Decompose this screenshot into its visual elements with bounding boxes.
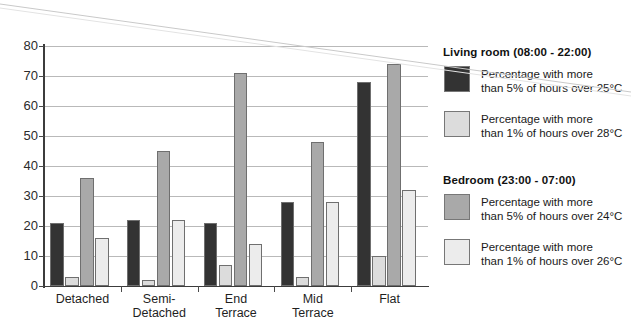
y-axis-labels: 01020304050607080 xyxy=(0,0,38,332)
bar-chart: 01020304050607080 DetachedSemi-DetachedE… xyxy=(0,0,436,332)
y-axis-tick-mark xyxy=(39,76,44,77)
x-axis-tick-label: Detached xyxy=(44,292,121,306)
legend-label-line: than 1% of hours over 28°C xyxy=(481,126,626,140)
y-axis-tick-mark xyxy=(39,226,44,227)
legend-label-line: Percentage with more xyxy=(481,67,626,81)
y-axis-tick-label: 80 xyxy=(4,39,38,52)
legend-label: Percentage with morethan 5% of hours ove… xyxy=(481,195,626,223)
x-axis-category-label: Flat xyxy=(351,292,428,306)
x-axis-tick-label: Terrace xyxy=(198,306,275,320)
legend-swatch xyxy=(444,194,470,220)
legend-section-title: Bedroom (23:00 - 07:00) xyxy=(443,174,576,186)
bar xyxy=(326,202,340,286)
y-axis-tick-label: 0 xyxy=(4,279,38,292)
bar xyxy=(65,277,79,286)
bar xyxy=(311,142,325,286)
legend-label-line: than 5% of hours over 25°C xyxy=(481,81,626,95)
bar xyxy=(80,178,94,286)
x-axis-tick-label: Detached xyxy=(121,306,198,320)
legend-label-line: Percentage with more xyxy=(481,195,626,209)
bar xyxy=(127,220,141,286)
legend-label: Percentage with morethan 1% of hours ove… xyxy=(481,240,626,268)
x-axis-tick-mark xyxy=(198,286,199,292)
y-axis-tick-label: 10 xyxy=(4,249,38,262)
x-axis-tick-mark xyxy=(351,286,352,292)
y-axis-tick-mark xyxy=(39,106,44,107)
legend-label-line: than 5% of hours over 24°C xyxy=(481,209,626,223)
bar xyxy=(249,244,263,286)
legend-label-line: Percentage with more xyxy=(481,240,626,254)
legend-swatch xyxy=(444,66,470,92)
y-axis-tick-mark xyxy=(39,46,44,47)
bar xyxy=(50,223,64,286)
y-axis-tick-label: 30 xyxy=(4,189,38,202)
bar xyxy=(95,238,109,286)
y-axis-tick-label: 20 xyxy=(4,219,38,232)
x-axis-tick-label: Mid xyxy=(274,292,351,306)
bar xyxy=(281,202,295,286)
bar xyxy=(204,223,218,286)
bar-group xyxy=(351,46,428,286)
y-axis-tick-label: 40 xyxy=(4,159,38,172)
x-axis-tick-label: Flat xyxy=(351,292,428,306)
bar xyxy=(357,82,371,286)
y-axis-tick-mark xyxy=(39,256,44,257)
y-axis-tick-mark xyxy=(39,136,44,137)
legend-label: Percentage with morethan 1% of hours ove… xyxy=(481,112,626,140)
bar xyxy=(387,64,401,286)
x-axis-category-label: Semi-Detached xyxy=(121,292,198,320)
bar xyxy=(142,280,156,286)
bar-group xyxy=(44,46,121,286)
legend-label-line: Percentage with more xyxy=(481,112,626,126)
y-axis-tick-mark xyxy=(39,196,44,197)
x-axis-category-label: MidTerrace xyxy=(274,292,351,320)
x-axis-category-label: Detached xyxy=(44,292,121,306)
y-axis-tick-mark xyxy=(39,166,44,167)
x-axis-line xyxy=(43,286,429,287)
bar xyxy=(372,256,386,286)
bar-group xyxy=(198,46,275,286)
y-axis-tick-mark xyxy=(39,286,44,287)
bar xyxy=(172,220,186,286)
x-axis-tick-mark xyxy=(121,286,122,292)
chart-page: 01020304050607080 DetachedSemi-DetachedE… xyxy=(0,0,631,332)
bar xyxy=(157,151,171,286)
chart-legend: Living room (08:00 - 22:00)Percentage wi… xyxy=(443,0,631,332)
legend-swatch xyxy=(444,239,470,265)
legend-label-line: than 1% of hours over 26°C xyxy=(481,254,626,268)
bar xyxy=(296,277,310,286)
y-axis-tick-label: 70 xyxy=(4,69,38,82)
x-axis-tick-label: Terrace xyxy=(274,306,351,320)
bar-group xyxy=(274,46,351,286)
x-axis-category-label: EndTerrace xyxy=(198,292,275,320)
legend-swatch xyxy=(444,111,470,137)
bar-groups xyxy=(44,46,428,286)
legend-label: Percentage with morethan 5% of hours ove… xyxy=(481,67,626,95)
x-axis-tick-label: End xyxy=(198,292,275,306)
bar xyxy=(219,265,233,286)
bar xyxy=(234,73,248,286)
x-axis-tick-mark xyxy=(274,286,275,292)
y-axis-tick-label: 60 xyxy=(4,99,38,112)
y-axis-tick-label: 50 xyxy=(4,129,38,142)
bar xyxy=(402,190,416,286)
bar-group xyxy=(121,46,198,286)
legend-section-title: Living room (08:00 - 22:00) xyxy=(443,46,591,58)
x-axis-tick-label: Semi- xyxy=(121,292,198,306)
